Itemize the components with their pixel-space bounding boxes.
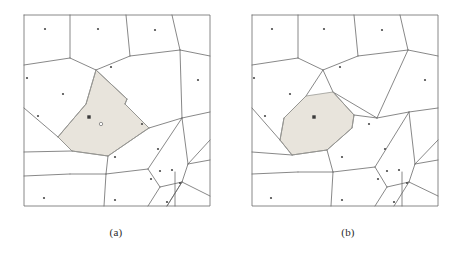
voronoi-site-point: [381, 29, 383, 31]
panel-b: (b): [232, 0, 464, 261]
voronoi-edge: [327, 150, 333, 172]
voronoi-edge: [24, 108, 58, 137]
voronoi-site-point: [171, 169, 173, 171]
voronoi-site-point: [393, 201, 395, 203]
voronoi-edge: [252, 108, 280, 140]
voronoi-edge: [375, 112, 409, 167]
highlight-site-marker-a: [87, 115, 90, 118]
voronoi-edge: [96, 56, 130, 70]
voronoi-site-point: [424, 79, 426, 81]
voronoi-site-point: [114, 156, 116, 158]
voronoi-site-point: [339, 66, 341, 68]
voronoi-site-point: [114, 199, 116, 201]
voronoi-edge: [182, 118, 188, 164]
voronoi-site-point: [368, 123, 370, 125]
voronoi-edge: [180, 50, 210, 56]
voronoi-edge: [333, 167, 375, 172]
voronoi-edge: [408, 50, 438, 56]
voronoi-edge: [323, 70, 333, 92]
highlight-region-b: [280, 92, 354, 155]
voronoi-edge: [400, 15, 408, 50]
voronoi-edge: [104, 174, 106, 206]
voronoi-edge: [182, 164, 188, 182]
voronoi-site-point: [386, 170, 388, 172]
voronoi-site-point: [141, 123, 143, 125]
voronoi-site-point: [377, 178, 379, 180]
voronoi-site-point: [406, 182, 408, 184]
voronoi-edge: [252, 152, 292, 155]
voronoi-edge: [377, 50, 408, 118]
voronoi-edge: [24, 58, 70, 65]
panel-b-highlight-fill: [280, 92, 354, 155]
voronoi-site-point: [341, 156, 343, 158]
highlight-site-marker-b: [312, 115, 315, 118]
voronoi-edge: [358, 50, 408, 56]
voronoi-edge: [375, 167, 387, 187]
voronoi-edge: [160, 182, 182, 187]
voronoi-edge: [172, 15, 180, 50]
voronoi-edge: [409, 164, 415, 182]
voronoi-site-point: [26, 77, 28, 79]
voronoi-edge: [298, 58, 323, 70]
voronoi-edge: [354, 115, 377, 118]
voronoi-edge: [106, 169, 148, 174]
voronoi-edge: [24, 174, 70, 176]
voronoi-edge: [106, 156, 108, 174]
voronoi-site-point: [37, 115, 39, 117]
voronoi-edge: [130, 50, 180, 56]
voronoi-site-point: [289, 93, 291, 95]
highlight-region-a: [58, 70, 149, 156]
voronoi-edge: [148, 169, 160, 187]
voronoi-figure: (a) (b): [0, 0, 465, 261]
voronoi-site-point: [264, 115, 266, 117]
voronoi-site-point: [159, 170, 161, 172]
voronoi-edge: [182, 182, 210, 196]
panel-a-canvas: [0, 0, 232, 261]
voronoi-site-point: [110, 66, 112, 68]
voronoi-edge: [409, 182, 438, 196]
voronoi-site-point: [253, 77, 255, 79]
voronoi-edge: [409, 108, 438, 112]
voronoi-site-point: [43, 197, 45, 199]
voronoi-edge: [180, 50, 182, 118]
voronoi-site-point: [323, 28, 325, 30]
voronoi-site-point: [150, 178, 152, 180]
voronoi-edge: [70, 58, 96, 70]
voronoi-site-point: [197, 79, 199, 81]
voronoi-edge: [24, 151, 72, 152]
voronoi-edge: [354, 15, 358, 56]
voronoi-site-point: [270, 197, 272, 199]
voronoi-edge: [375, 187, 387, 206]
voronoi-edge: [149, 118, 182, 128]
voronoi-edge: [306, 70, 323, 96]
voronoi-edge: [331, 172, 333, 206]
voronoi-edge: [409, 112, 415, 164]
panel-a: (a): [0, 0, 232, 261]
panel-a-highlight-fill: [58, 70, 149, 156]
voronoi-edge: [167, 182, 182, 206]
voronoi-site-point: [166, 201, 168, 203]
voronoi-edge: [252, 58, 298, 65]
voronoi-site-point: [398, 169, 400, 171]
voronoi-site-point: [384, 148, 386, 150]
voronoi-site-point: [62, 93, 64, 95]
panel-b-canvas: [232, 0, 464, 261]
voronoi-site-point: [154, 29, 156, 31]
voronoi-edge: [148, 187, 160, 206]
panel-b-caption: (b): [232, 226, 464, 238]
voronoi-site-point: [97, 28, 99, 30]
voronoi-site-point: [157, 148, 159, 150]
panel-b-markers: [312, 115, 315, 118]
voronoi-edge: [126, 15, 130, 56]
highlight-label-dot-a: [99, 122, 102, 125]
voronoi-site-point: [179, 182, 181, 184]
voronoi-site-point: [44, 28, 46, 30]
voronoi-edge: [148, 118, 182, 169]
voronoi-site-point: [341, 199, 343, 201]
voronoi-edge: [252, 172, 298, 174]
panel-a-caption: (a): [0, 226, 232, 238]
voronoi-edge: [182, 112, 210, 118]
voronoi-site-point: [271, 28, 273, 30]
voronoi-edge: [394, 182, 409, 206]
voronoi-edge: [387, 182, 409, 187]
